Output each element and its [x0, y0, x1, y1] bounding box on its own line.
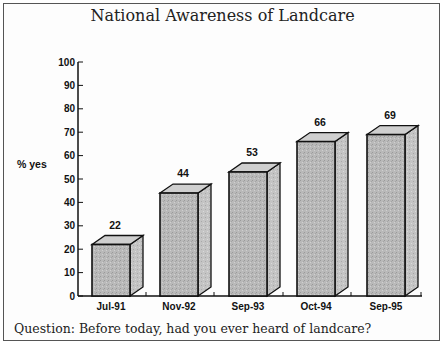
bar-oct-94: 66 [297, 116, 348, 296]
y-tick-label: 40 [64, 197, 76, 208]
value-label: 44 [177, 167, 189, 179]
x-tick-label: Sep-93 [232, 301, 265, 312]
y-tick-label: 80 [64, 103, 76, 114]
y-tick-label: 50 [64, 174, 76, 185]
y-tick-label: 60 [64, 150, 76, 161]
y-tick-label: 20 [64, 244, 76, 255]
bar-sep-95: 69 [367, 109, 418, 296]
value-label: 53 [246, 146, 258, 158]
bar-nov-92: 44 [160, 167, 211, 296]
y-tick-label: 10 [64, 267, 76, 278]
value-label: 22 [109, 219, 121, 231]
y-tick-label: 90 [64, 80, 76, 91]
bar-sep-93: 53 [229, 146, 280, 296]
x-tick-label: Nov-92 [162, 301, 196, 312]
y-tick-label: 30 [64, 220, 76, 231]
question-caption: Question: Before today, had you ever hea… [14, 321, 371, 336]
y-tick-label: 100 [58, 57, 75, 68]
value-label: 66 [314, 116, 326, 128]
bars: 2244536669 [92, 109, 418, 296]
value-label: 69 [384, 109, 396, 121]
y-tick-label: 70 [64, 127, 76, 138]
y-tick-label: 0 [69, 291, 75, 302]
x-tick-label: Sep-95 [370, 301, 403, 312]
x-tick-label: Jul-91 [97, 301, 126, 312]
x-tick-label: Oct-94 [300, 301, 332, 312]
bar-jul-91: 22 [92, 219, 143, 296]
bar-chart: 0102030405060708090100Jul-91Nov-92Sep-93… [0, 0, 445, 346]
